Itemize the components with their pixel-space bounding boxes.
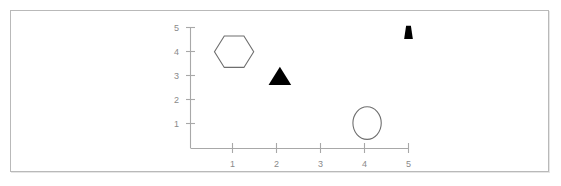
figure-border [10, 10, 549, 172]
figure-root: 5 4 3 2 1 1 2 3 4 5 [0, 0, 561, 186]
